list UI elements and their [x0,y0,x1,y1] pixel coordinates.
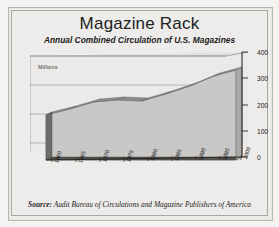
source-label: Source: [28,200,52,209]
y-tick-label: 100 [257,128,268,135]
source-note: Source: Audit Bureau of Circulations and… [0,200,279,209]
y-tick-label: 0 [257,154,261,161]
y-tick-label: 200 [257,102,268,109]
chart-subtitle: Annual Combined Circulation of U.S. Maga… [0,35,279,45]
y-axis-tick-labels: 400 300 200 100 0 [249,48,279,172]
area-chart-svg [30,48,248,172]
source-text: Audit Bureau of Circulations and Magazin… [54,200,251,209]
y-tick-label: 400 [257,49,268,56]
plot-area: Millions [30,48,248,172]
back-wall-top [30,52,248,56]
area-right-cap [236,67,242,160]
x-axis-tick-labels: 1960 1965 1970 1975 1980 1985 1990 1995 … [30,160,248,200]
y-axis-label: Millions [38,64,58,70]
chart-image-root: Magazine Rack Annual Combined Circulatio… [0,0,279,227]
area-left-cap [46,112,52,160]
chart-title: Magazine Rack [0,14,279,34]
y-tick-label: 300 [257,75,268,82]
